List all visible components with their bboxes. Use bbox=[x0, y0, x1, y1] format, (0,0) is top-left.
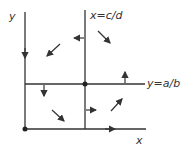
x-axis-label: x bbox=[136, 134, 143, 147]
arrow-bottomleft bbox=[52, 110, 64, 121]
equilibrium-origin bbox=[23, 127, 28, 132]
arrow-topleft bbox=[47, 44, 60, 56]
arrow-bottomright bbox=[111, 99, 122, 111]
y-axis-label: y bbox=[9, 10, 16, 23]
phase-plane-diagram bbox=[0, 0, 193, 151]
vertical-nullcline-label: x=c/d bbox=[90, 9, 122, 22]
arrow-topright bbox=[98, 31, 110, 43]
horizontal-nullcline-label: y=a/b bbox=[147, 77, 180, 90]
equilibrium-interior bbox=[83, 82, 88, 87]
